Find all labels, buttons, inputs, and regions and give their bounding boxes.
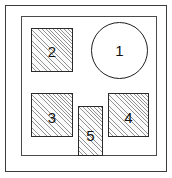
circle-region-1[interactable]: 1 [91,22,148,79]
rect-region-3[interactable]: 3 [31,93,73,137]
region-label-5: 5 [86,128,94,143]
rect-region-5[interactable]: 5 [78,106,103,156]
rect-region-2[interactable]: 2 [31,28,73,72]
region-label-3: 3 [48,110,56,125]
diagram-canvas: 1 2 3 4 5 [0,0,172,178]
region-label-4: 4 [124,110,132,125]
region-label-1: 1 [115,43,123,58]
region-label-2: 2 [48,44,56,59]
rect-region-4[interactable]: 4 [108,93,149,137]
